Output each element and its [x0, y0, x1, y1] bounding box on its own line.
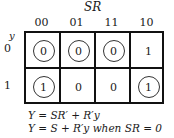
- equation-text: Y = S + R′y when SR = 0: [28, 122, 162, 134]
- cell-value: 1: [145, 45, 152, 58]
- cell-value: 0: [75, 45, 82, 58]
- column-header-11: 11: [94, 16, 129, 29]
- row-header-0: 0: [4, 42, 11, 55]
- cell-y1-sr01: 0: [61, 69, 96, 105]
- equation-text: Y = SR′ + R′y: [28, 109, 100, 121]
- row-header-1: 1: [4, 79, 11, 92]
- column-header-10: 10: [129, 16, 164, 29]
- grouping-circle: 1: [138, 76, 160, 98]
- cell-value: 0: [110, 45, 117, 58]
- cell-y1-sr10: 1: [131, 69, 166, 105]
- cell-y0-sr11: 0: [96, 33, 131, 69]
- cell-y1-sr11: 0: [96, 69, 131, 105]
- grouping-circle: 0: [103, 40, 125, 62]
- equation-2: Y = S + R′y when SR = 0: [28, 122, 162, 134]
- cell-y0-sr10: 1: [131, 33, 166, 69]
- column-header-00: 00: [24, 16, 59, 29]
- cell-y0-sr01: 0: [61, 33, 96, 69]
- equation-1: Y = SR′ + R′y: [28, 109, 100, 121]
- column-header-01: 01: [59, 16, 94, 29]
- column-variable-label: SR: [84, 0, 101, 14]
- cell-value: 0: [110, 81, 117, 94]
- cell-value: 1: [40, 81, 47, 94]
- cell-value: 1: [145, 81, 152, 94]
- row-variable-label: y: [9, 30, 15, 41]
- cell-y0-sr00: 0: [26, 33, 61, 69]
- cell-y1-sr00: 1: [26, 69, 61, 105]
- grouping-circle: 0: [33, 40, 55, 62]
- grouping-circle: 1: [33, 76, 55, 98]
- cell-value: 0: [75, 81, 82, 94]
- karnaugh-map-grid: 0 0 0 1 1 0 0 1: [24, 31, 164, 104]
- cell-value: 0: [40, 45, 47, 58]
- grouping-circle: 0: [68, 40, 90, 62]
